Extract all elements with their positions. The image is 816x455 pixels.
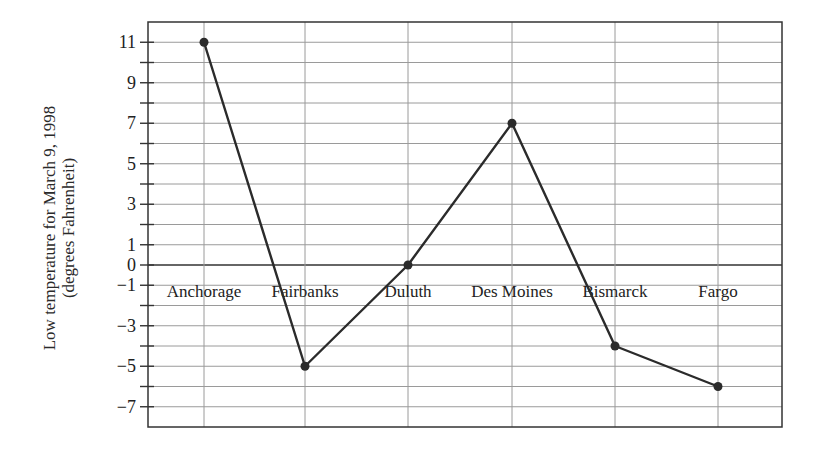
data-point-marker — [200, 38, 209, 47]
y-tick-label: 5 — [127, 154, 136, 174]
data-series — [200, 38, 723, 391]
data-point-marker — [301, 362, 310, 371]
y-tick-label: 3 — [127, 194, 136, 214]
y-tick-label: −1 — [117, 275, 136, 295]
data-point-marker — [404, 261, 413, 270]
x-category-label: Anchorage — [167, 282, 242, 301]
x-category-label: Des Moines — [471, 282, 553, 301]
y-tick-label: −7 — [117, 397, 136, 417]
y-tick-label: 0 — [127, 255, 136, 275]
gridlines — [148, 22, 782, 427]
y-tick-label: 1 — [127, 235, 136, 255]
data-point-marker — [611, 342, 620, 351]
y-tick-label: 9 — [127, 73, 136, 93]
line-chart: 11975310−1−3−5−7 AnchorageFairbanksDulut… — [0, 0, 816, 455]
x-category-label: Fargo — [698, 282, 737, 301]
x-category-label: Duluth — [384, 282, 432, 301]
y-tick-label: −5 — [117, 356, 136, 376]
y-tick-label: 11 — [119, 32, 136, 52]
y-tick-label: −3 — [117, 316, 136, 336]
data-point-marker — [508, 119, 517, 128]
y-tick-label: 7 — [127, 113, 136, 133]
temperature-line — [204, 42, 718, 386]
data-point-marker — [714, 382, 723, 391]
